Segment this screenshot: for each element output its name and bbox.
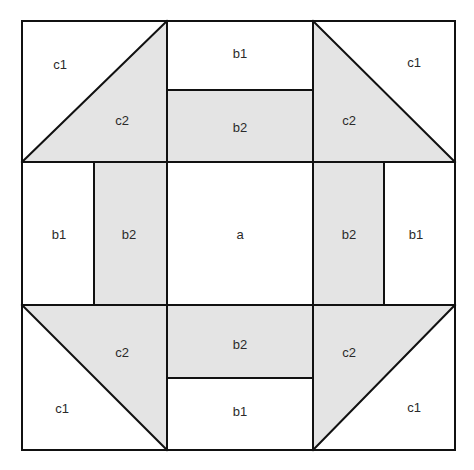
label-b2-left: b2 [122, 228, 136, 241]
label-c1-bottom-right: c1 [407, 401, 421, 414]
label-c2-bottom-right: c2 [342, 346, 356, 359]
label-c1-top-right: c1 [407, 56, 421, 69]
label-b1-bottom: b1 [233, 405, 247, 418]
label-b2-top: b2 [233, 121, 247, 134]
label-b2-right: b2 [342, 228, 356, 241]
label-c2-top-left: c2 [115, 114, 129, 127]
label-c2-top-right: c2 [342, 114, 356, 127]
label-b1-left: b1 [52, 228, 66, 241]
label-c2-bottom-left: c2 [115, 346, 129, 359]
label-a-center: a [236, 228, 243, 241]
label-b1-top: b1 [233, 47, 247, 60]
label-c1-top-left: c1 [53, 58, 67, 71]
label-b2-bottom: b2 [233, 338, 247, 351]
label-c1-bottom-left: c1 [55, 402, 69, 415]
label-b1-right: b1 [409, 228, 423, 241]
